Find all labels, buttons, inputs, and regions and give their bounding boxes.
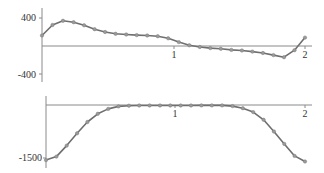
data-point-marker — [241, 107, 244, 110]
top-y-label-400: 400 — [21, 12, 36, 23]
data-point-marker — [240, 49, 243, 52]
bottom-plot: -1500 1 2 — [19, 96, 312, 168]
data-point-marker — [44, 158, 47, 161]
chart-figure: 400 -400 1 2 -1500 1 2 — [0, 0, 324, 173]
data-point-marker — [272, 53, 275, 56]
data-point-marker — [65, 144, 68, 147]
data-point-marker — [114, 32, 117, 35]
data-point-marker — [55, 155, 58, 158]
data-point-marker — [138, 104, 141, 107]
data-point-marker — [146, 34, 149, 37]
data-point-marker — [272, 130, 275, 133]
data-point-marker — [220, 104, 223, 107]
data-point-marker — [230, 48, 233, 51]
data-point-marker — [282, 56, 285, 59]
data-point-marker — [179, 104, 182, 107]
data-point-marker — [303, 36, 306, 39]
data-point-marker — [262, 118, 265, 121]
top-plot: 400 -400 1 2 — [18, 8, 312, 82]
data-point-marker — [188, 44, 191, 47]
top-x-label-2: 2 — [303, 49, 308, 60]
data-point-marker — [209, 46, 212, 49]
data-point-marker — [198, 45, 201, 48]
data-point-marker — [293, 154, 296, 157]
data-point-marker — [96, 112, 99, 115]
data-point-marker — [231, 104, 234, 107]
data-point-marker — [135, 33, 138, 36]
data-point-marker — [125, 33, 128, 36]
chart-canvas: 400 -400 1 2 -1500 1 2 — [0, 0, 324, 173]
data-point-marker — [219, 47, 222, 50]
data-point-marker — [158, 104, 161, 107]
data-point-marker — [107, 107, 110, 110]
data-point-marker — [72, 21, 75, 24]
bottom-x-label-1: 1 — [173, 108, 178, 119]
data-point-marker — [189, 104, 192, 107]
data-point-marker — [40, 34, 43, 37]
bottom-y-label-neg1500: -1500 — [19, 152, 42, 163]
data-point-marker — [177, 40, 180, 43]
data-point-marker — [75, 132, 78, 135]
data-point-marker — [61, 19, 64, 22]
top-y-label-neg400: -400 — [18, 69, 36, 80]
data-point-marker — [169, 104, 172, 107]
top-x-label-1: 1 — [172, 49, 177, 60]
data-point-marker — [86, 120, 89, 123]
bottom-x-label-2: 2 — [303, 108, 308, 119]
data-point-marker — [210, 104, 213, 107]
data-point-marker — [156, 35, 159, 38]
data-point-marker — [252, 110, 255, 113]
data-point-marker — [200, 104, 203, 107]
data-point-marker — [251, 50, 254, 53]
data-point-marker — [117, 105, 120, 108]
data-point-marker — [283, 142, 286, 145]
data-point-marker — [103, 30, 106, 33]
data-point-marker — [82, 24, 85, 27]
data-point-marker — [148, 104, 151, 107]
data-point-marker — [167, 37, 170, 40]
data-point-marker — [51, 23, 54, 26]
data-point-marker — [303, 160, 306, 163]
data-point-marker — [261, 51, 264, 54]
data-point-marker — [293, 49, 296, 52]
data-point-marker — [127, 104, 130, 107]
data-point-marker — [93, 28, 96, 31]
